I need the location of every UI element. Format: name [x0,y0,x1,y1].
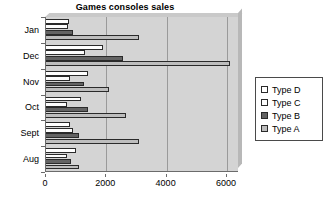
y-axis-label-aug: Aug [23,154,39,164]
plot-3d-right-face [238,9,242,168]
y-axis-label-oct: Oct [25,102,39,112]
bar-type-c-jan [46,24,68,29]
bar-type-b-jan [46,30,73,35]
chart-legend: Type DType CType BType A [255,77,323,141]
legend-swatch-icon [261,99,268,106]
bar-type-c-dec [46,50,85,55]
bar-type-a-jan [46,35,139,40]
bar-group [46,146,238,172]
x-axis-label-0: 0 [42,178,47,188]
y-axis-label-jan: Jan [24,25,39,35]
bar-group [46,120,238,146]
bar-type-a-dec [46,61,230,66]
bar-group [46,43,238,69]
x-axis-label-4000: 4000 [156,178,176,188]
legend-label: Type A [272,124,300,134]
x-axis: 0200040006000 [45,174,245,190]
x-axis-tick [105,174,106,177]
bar-group [46,69,238,95]
x-axis-label-6000: 6000 [216,178,236,188]
x-axis-label-2000: 2000 [95,178,115,188]
bar-type-c-oct [46,102,67,107]
bar-type-b-nov [46,82,84,87]
chart-title: Games consoles sales [0,2,250,12]
bar-type-b-oct [46,107,88,112]
legend-swatch-icon [261,125,268,132]
plot-area [45,17,238,172]
bar-type-b-sept [46,133,79,138]
bar-type-d-aug [46,148,76,153]
plot-shell [45,17,238,172]
bar-type-d-jan [46,19,69,24]
bar-type-a-aug [46,165,79,170]
legend-swatch-icon [261,112,268,119]
x-axis-tick [45,174,46,177]
legend-item-type-b[interactable]: Type B [261,109,318,122]
legend-label: Type D [272,85,301,95]
legend-label: Type B [272,111,300,121]
x-axis-tick [166,174,167,177]
y-axis-label-dec: Dec [23,51,39,61]
bar-type-d-oct [46,97,81,102]
bar-type-c-nov [46,76,70,81]
bar-type-d-nov [46,71,88,76]
bar-type-d-sept [46,122,70,127]
chart-container: Games consoles sales JanDecNovOctSeptAug… [0,0,328,207]
bar-type-a-nov [46,87,109,92]
bar-type-c-aug [46,154,67,159]
y-axis-label-sept: Sept [20,128,39,138]
y-axis: JanDecNovOctSeptAug [0,17,43,172]
x-axis-tick [226,174,227,177]
bar-type-c-sept [46,128,73,133]
bar-group [46,17,238,43]
bar-type-a-oct [46,113,126,118]
legend-item-type-d[interactable]: Type D [261,83,318,96]
bar-type-b-dec [46,56,123,61]
legend-item-type-a[interactable]: Type A [261,122,318,135]
y-axis-tick [41,172,45,173]
y-axis-label-nov: Nov [23,77,39,87]
bar-group [46,95,238,121]
legend-item-type-c[interactable]: Type C [261,96,318,109]
legend-swatch-icon [261,86,268,93]
bar-type-b-aug [46,159,71,164]
legend-label: Type C [272,98,301,108]
bar-type-d-dec [46,45,103,50]
bar-type-a-sept [46,139,139,144]
